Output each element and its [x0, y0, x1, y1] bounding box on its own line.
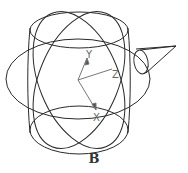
figure-caption: B — [0, 151, 188, 166]
bottom-ellipse — [30, 106, 128, 154]
coordinate-axes: Y Z X — [78, 49, 119, 123]
cylinder-right-side — [128, 28, 130, 133]
z-axis — [78, 69, 112, 80]
z-axis-label: Z — [112, 69, 119, 80]
x-axis-label: X — [93, 112, 100, 123]
diagram-canvas: Y Z X — [0, 0, 188, 173]
cylinder-left-side — [28, 28, 30, 133]
camera-cone — [132, 46, 176, 75]
cone-base — [132, 49, 150, 75]
y-axis-label: Y — [85, 49, 93, 60]
